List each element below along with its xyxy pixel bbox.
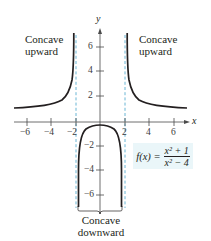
y-tick-label: 4 (88, 65, 93, 75)
y-axis-label: y (96, 13, 100, 25)
x-axis-label: x (192, 115, 196, 127)
concave-upward-right-label: Concave upward (139, 33, 177, 57)
label-line: Concave (139, 33, 177, 45)
label-line: Concave (77, 214, 125, 226)
concave-downward-label: Concave downward (77, 214, 125, 238)
x-tick-label: −6 (20, 127, 30, 137)
function-formula: f(x) = x² + 1 x² − 4 (133, 143, 193, 169)
y-tick-label: −4 (84, 164, 94, 174)
x-tick-label: −2 (67, 127, 77, 137)
x-tick-label: 2 (122, 127, 127, 137)
label-line: upward (25, 45, 63, 57)
concave-upward-left-label: Concave upward (25, 33, 63, 57)
y-axis-arrow-icon (98, 28, 102, 34)
x-tick-label: 4 (146, 127, 151, 137)
y-tick-label: −6 (84, 189, 94, 199)
formula-numerator: x² + 1 (164, 145, 190, 157)
y-tick-label: 2 (88, 90, 93, 100)
y-tick-label: 6 (88, 41, 93, 51)
label-line: Concave (25, 33, 63, 45)
label-line: upward (139, 45, 177, 57)
x-tick-label: 6 (171, 127, 176, 137)
formula-lhs: f(x) = (136, 151, 160, 162)
formula-fraction: x² + 1 x² − 4 (164, 145, 190, 168)
formula-denominator: x² − 4 (165, 157, 189, 168)
x-tick-label: −4 (44, 127, 54, 137)
y-tick-label: −2 (84, 140, 94, 150)
x-axis-arrow-icon (184, 120, 190, 124)
label-line: downward (77, 226, 125, 238)
